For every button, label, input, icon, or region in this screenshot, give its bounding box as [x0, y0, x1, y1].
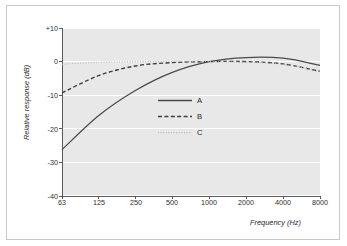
- legend-label-c: C: [197, 129, 202, 137]
- x-tick-label: 4000: [269, 199, 297, 206]
- y-tick-label: -10: [36, 92, 58, 99]
- y-axis-title: Relative response (dB): [23, 65, 30, 140]
- chart-figure: +10 0 -10 -20 -30 -40 63 125 250 500 100…: [0, 0, 347, 246]
- x-tick-label: 500: [158, 199, 186, 206]
- plot-background: [62, 28, 320, 196]
- plot-canvas: [0, 0, 347, 246]
- y-tick-label: 0: [36, 58, 58, 65]
- x-axis-title: Frequency (Hz): [250, 219, 301, 226]
- legend-label-b: B: [197, 113, 202, 121]
- x-tick-label: 8000: [306, 199, 334, 206]
- y-tick-label: +10: [36, 25, 58, 32]
- x-tick-label: 63: [48, 199, 76, 206]
- x-tick-label: 250: [122, 199, 150, 206]
- y-tick-label: -30: [36, 159, 58, 166]
- x-tick-label: 2000: [232, 199, 260, 206]
- x-tick-label: 125: [85, 199, 113, 206]
- legend-label-a: A: [197, 97, 202, 105]
- x-tick-label: 1000: [195, 199, 223, 206]
- y-tick-label: -20: [36, 126, 58, 133]
